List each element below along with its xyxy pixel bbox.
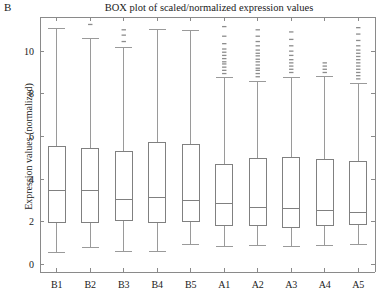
y-tick-label: 4 [29, 174, 34, 185]
box-plot-item [283, 32, 300, 246]
x-tick-label: B5 [185, 279, 197, 290]
box-body [249, 158, 266, 225]
x-tick-label: A2 [252, 279, 264, 290]
box-body [283, 157, 300, 227]
y-tick-label: 0 [29, 259, 34, 270]
x-tick-label: A5 [352, 279, 364, 290]
box-body [350, 161, 367, 224]
box-plot-item [48, 29, 65, 252]
x-tick-label: B4 [151, 279, 163, 290]
x-tick-label: B2 [84, 279, 96, 290]
x-tick-label: B1 [51, 279, 63, 290]
y-tick-label: 6 [29, 131, 34, 142]
box-body [182, 145, 199, 222]
y-tick-label: 8 [29, 88, 34, 99]
box-plot-item [350, 28, 367, 245]
x-tick-label: A1 [218, 279, 230, 290]
box-plot-figure: B BOX plot of scaled/normalized expressi… [0, 0, 382, 303]
box-plot-item [149, 30, 166, 251]
x-tick-label: B3 [118, 279, 130, 290]
box-body [149, 142, 166, 222]
box-body [115, 151, 132, 220]
box-body [216, 164, 233, 225]
x-tick-label: A4 [319, 279, 331, 290]
box-series [48, 24, 367, 252]
y-tick-label: 10 [24, 46, 34, 57]
box-plot-item [316, 63, 333, 245]
box-body [48, 146, 65, 223]
box-plot-item [249, 30, 266, 246]
box-plot-item [182, 31, 199, 244]
box-plot-item [115, 30, 132, 252]
x-axis-ticks: B1B2B3B4B5A1A2A3A4A5 [51, 17, 364, 290]
box-body [82, 149, 99, 222]
box-plot-item [82, 24, 99, 247]
box-plot-item [216, 27, 233, 247]
plot-area: 0246810 B1B2B3B4B5A1A2A3A4A5 [0, 0, 382, 303]
x-tick-label: A3 [285, 279, 297, 290]
y-tick-label: 2 [29, 216, 34, 227]
box-body [316, 160, 333, 226]
